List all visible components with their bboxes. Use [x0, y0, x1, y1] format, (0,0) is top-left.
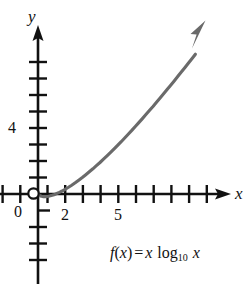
- formula-log-name: log: [157, 244, 177, 261]
- origin-open-circle-marker: [28, 188, 38, 198]
- function-graph-figure: y x 0 2 5 4 f(x)=xlog10x: [0, 0, 252, 284]
- formula-log-argument: x: [193, 244, 200, 261]
- formula-coefficient: x: [145, 244, 152, 261]
- formula-log-base: 10: [178, 252, 188, 263]
- y-tick-label-4: 4: [8, 120, 16, 136]
- function-formula-caption: f(x)=xlog10x: [110, 245, 200, 261]
- curve-arrowhead: [191, 21, 206, 49]
- x-tick-label-5: 5: [114, 207, 122, 223]
- y-axis-label: y: [28, 8, 36, 25]
- function-curve: [38, 54, 195, 196]
- x-tick-label-2: 2: [61, 207, 69, 223]
- plot-canvas: [0, 0, 252, 284]
- x-axis-label: x: [235, 185, 243, 202]
- origin-tick-label: 0: [14, 204, 22, 220]
- y-axis-negative-ticks: [29, 211, 50, 261]
- formula-lhs-var: x: [120, 244, 127, 261]
- formula-equals: =: [132, 244, 145, 261]
